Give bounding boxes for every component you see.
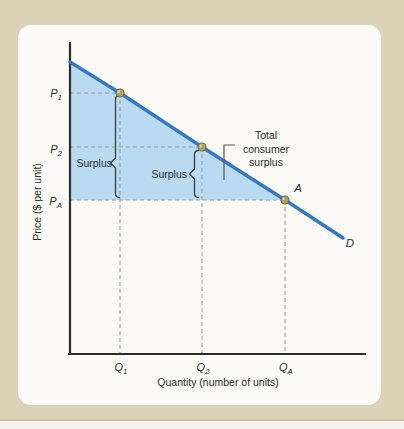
point-a-label: A: [294, 182, 302, 194]
p2-main: P: [50, 143, 57, 155]
q2-sub: 2: [205, 367, 209, 376]
x-tick-qa: QA: [279, 361, 293, 373]
surplus-label-1: Surplus: [40, 157, 112, 169]
pa-main: P: [49, 195, 56, 207]
y-tick-p1: P1: [34, 87, 62, 99]
consumer-surplus-figure: Price ($ per unit) Quantity (number of u…: [0, 0, 404, 429]
x-tick-q1: Q1: [114, 361, 127, 373]
total-surplus-line-3: surplus: [243, 156, 289, 170]
point-q2-p2: [198, 143, 206, 151]
y-tick-p2: P2: [34, 143, 62, 155]
point-q1-p1: [116, 89, 124, 97]
total-surplus-line-2: consumer: [243, 142, 289, 156]
p1-main: P: [50, 87, 57, 99]
qa-main: Q: [279, 361, 288, 373]
surplus-label-2: Surplus: [115, 168, 187, 180]
demand-curve-label: D: [346, 237, 354, 249]
pa-sub: A: [57, 201, 62, 210]
total-surplus-label: Total consumer surplus: [243, 129, 289, 170]
q1-sub: 1: [123, 367, 127, 376]
qa-sub: A: [288, 367, 293, 376]
point-a: [281, 196, 289, 204]
q2-main: Q: [196, 361, 205, 373]
q1-main: Q: [114, 361, 123, 373]
total-surplus-line-1: Total: [243, 129, 289, 143]
x-axis-title: Quantity (number of units): [157, 376, 278, 388]
y-tick-pa: PA: [34, 195, 62, 207]
x-tick-q2: Q2: [196, 361, 209, 373]
p1-sub: 1: [58, 93, 62, 102]
